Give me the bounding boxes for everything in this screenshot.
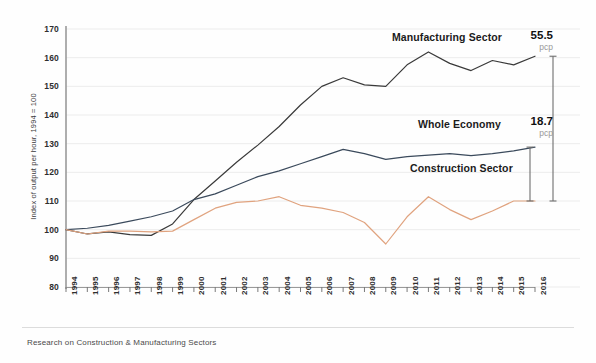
x-tick-label: 2008 — [368, 276, 377, 295]
chart-page: Index of output per hour, 1994 = 100 809… — [0, 0, 596, 363]
series-label-construction: Construction Sector — [410, 162, 513, 174]
whole-economy-bracket — [527, 147, 534, 201]
annotation-whole-economy-unit: pcp — [513, 128, 553, 138]
y-tick-label: 110 — [33, 196, 59, 206]
x-tick-label: 1996 — [112, 276, 121, 295]
x-tick-label: 2001 — [219, 276, 228, 295]
x-tick-label: 2016 — [539, 276, 548, 295]
x-tick-label: 1998 — [155, 276, 164, 295]
x-tick-label: 2006 — [325, 276, 334, 295]
x-tick-label: 2011 — [432, 277, 441, 295]
series-label-manufacturing: Manufacturing Sector — [392, 31, 502, 43]
annotation-manufacturing-value: 55.5 — [513, 29, 553, 41]
footer-caption: Research on Construction & Manufacturing… — [27, 338, 217, 347]
y-tick-label: 80 — [33, 282, 59, 292]
x-tick-label: 1999 — [176, 276, 185, 295]
y-tick-label: 170 — [33, 24, 59, 34]
x-tick-label: 2010 — [411, 276, 420, 295]
series-line-whole-economy — [66, 147, 535, 230]
x-tick-label: 2014 — [496, 276, 505, 295]
chart-region: Index of output per hour, 1994 = 100 809… — [0, 0, 596, 300]
y-tick-label: 160 — [33, 53, 59, 63]
x-tick-label: 2009 — [389, 276, 398, 295]
y-tick-label: 90 — [33, 253, 59, 263]
x-tick-label: 2013 — [475, 276, 484, 295]
annotation-manufacturing-unit: pcp — [513, 42, 553, 52]
x-tick-label: 2012 — [453, 276, 462, 295]
annotation-whole-economy-value: 18.7 — [513, 115, 553, 127]
x-tick-label: 2007 — [347, 276, 356, 295]
x-tick-label: 2000 — [197, 276, 206, 295]
x-tick-label: 1995 — [91, 276, 100, 295]
x-tick-label: 1994 — [70, 276, 79, 295]
y-tick-label: 130 — [33, 139, 59, 149]
x-tick-label: 2004 — [283, 276, 292, 295]
y-tick-label: 140 — [33, 110, 59, 120]
series-paths — [66, 52, 535, 244]
x-tick-label: 1997 — [133, 276, 142, 295]
series-label-whole-economy: Whole Economy — [418, 118, 501, 130]
x-tick-label: 2002 — [240, 276, 249, 295]
x-tick-label: 2015 — [517, 276, 526, 295]
x-tick-label: 2005 — [304, 276, 313, 295]
x-tick-label: 2003 — [261, 276, 270, 295]
gridlines — [66, 29, 580, 287]
y-tick-label: 120 — [33, 167, 59, 177]
y-tick-label: 100 — [33, 225, 59, 235]
line-chart-plot — [0, 0, 596, 300]
y-tick-label: 150 — [33, 81, 59, 91]
footer-divider — [22, 327, 574, 328]
